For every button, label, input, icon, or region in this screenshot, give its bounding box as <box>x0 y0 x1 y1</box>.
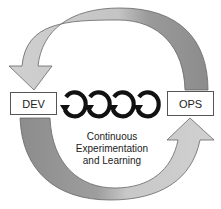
loop-arrow-icon <box>133 92 159 116</box>
top-cycle-arrow <box>9 8 208 90</box>
ops-node: OPS <box>167 91 214 116</box>
loop-icons <box>60 92 159 116</box>
ops-label: OPS <box>179 98 202 110</box>
dev-label: DEV <box>22 98 45 110</box>
loop-arrow-icon <box>60 92 86 116</box>
dev-node: DEV <box>10 92 57 115</box>
caption-line-2: Experimentation <box>62 143 162 155</box>
caption-line-1: Continuous <box>62 131 162 143</box>
cycle-caption: Continuous Experimentation and Learning <box>62 131 162 167</box>
loop-arrow-icon <box>108 92 134 116</box>
loop-arrow-icon <box>84 92 110 116</box>
caption-line-3: and Learning <box>62 155 162 167</box>
